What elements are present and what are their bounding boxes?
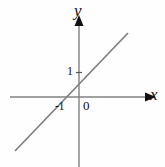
y-axis-label: y	[74, 2, 82, 19]
origin-label: 0	[83, 99, 90, 112]
line-graph-figure: y x 1 -1 0	[0, 0, 165, 167]
y-tick-label-one: 1	[67, 65, 73, 77]
x-tick-label-negative-one: -1	[55, 100, 64, 112]
graph-canvas	[0, 0, 165, 167]
y-axis	[75, 15, 84, 167]
plotted-line	[15, 33, 128, 151]
x-axis-label: x	[150, 86, 158, 103]
